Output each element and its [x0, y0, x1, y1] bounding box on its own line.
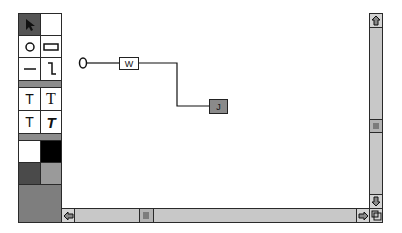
node-w-label: W: [125, 59, 134, 69]
node-j[interactable]: J: [209, 99, 228, 114]
resize-grow-icon: [371, 210, 382, 221]
text-serif-label: T: [46, 91, 56, 107]
vertical-scroll-thumb[interactable]: [369, 119, 383, 133]
scroll-up-button[interactable]: [369, 13, 383, 28]
arrow-pointer-icon: [24, 18, 36, 32]
text-sans-tool[interactable]: T: [18, 87, 41, 111]
connector-tool[interactable]: [40, 57, 62, 81]
arrow-right-icon: [358, 211, 369, 221]
color-black[interactable]: [40, 140, 62, 163]
text-serif-tool[interactable]: T: [40, 87, 62, 111]
current-fill-swatch: [18, 184, 62, 223]
text-sans-small-label: T: [25, 115, 34, 129]
node-j-label: J: [216, 102, 221, 112]
grip-lines-icon: [140, 209, 153, 222]
grow-box[interactable]: [369, 208, 383, 223]
drawing-canvas[interactable]: W J: [61, 13, 369, 208]
grip-lines-icon: [370, 120, 382, 132]
color-mid-gray[interactable]: [40, 162, 62, 185]
tool-palette: T T T T: [18, 13, 62, 223]
arrow-tool[interactable]: [18, 13, 41, 36]
text-sans-small-tool[interactable]: T: [18, 110, 41, 134]
arrow-left-icon: [63, 211, 74, 221]
arrow-up-icon: [371, 15, 381, 26]
oval-tool[interactable]: [18, 35, 41, 58]
node-w[interactable]: W: [119, 57, 139, 70]
scroll-left-button[interactable]: [61, 208, 75, 223]
circle-icon: [24, 41, 36, 53]
blank-tool[interactable]: [40, 13, 62, 36]
color-dark-gray[interactable]: [18, 162, 41, 185]
elbow-connector-icon: [45, 61, 57, 77]
color-white[interactable]: [18, 140, 41, 163]
line-icon: [23, 64, 37, 74]
rectangle-icon: [43, 42, 59, 52]
vertical-scrollbar[interactable]: [369, 13, 383, 209]
text-bold-italic-label: T: [46, 115, 55, 130]
line-tool[interactable]: [18, 57, 41, 81]
text-bold-italic-tool[interactable]: T: [40, 110, 62, 134]
rectangle-tool[interactable]: [40, 35, 62, 58]
start-node-circle: [80, 58, 87, 68]
arrow-down-icon: [371, 196, 381, 207]
scroll-down-button[interactable]: [369, 194, 383, 209]
horizontal-scrollbar[interactable]: [61, 208, 370, 223]
text-sans-label: T: [25, 92, 34, 106]
horizontal-scroll-thumb[interactable]: [139, 208, 154, 223]
scroll-right-button[interactable]: [356, 208, 370, 223]
